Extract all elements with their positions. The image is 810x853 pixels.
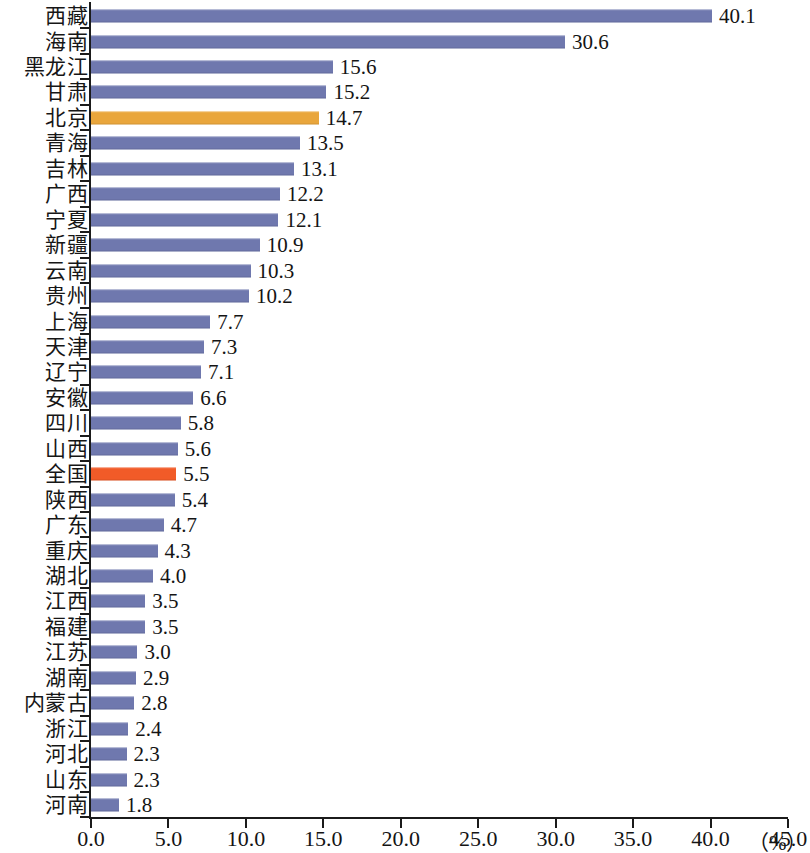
category-label: 山东	[45, 769, 88, 790]
category-label: 新疆	[45, 235, 88, 256]
bar	[91, 417, 181, 430]
chart-row: 广东4.7	[0, 512, 810, 538]
bar-container	[91, 86, 326, 99]
category-label: 四川	[45, 413, 88, 434]
bar-container	[91, 188, 280, 201]
chart-row: 吉林13.1	[0, 156, 810, 182]
chart-row: 江西3.5	[0, 588, 810, 614]
bar	[91, 493, 175, 506]
x-axis-tick-label: 40.0	[691, 826, 730, 852]
bar-container	[91, 35, 565, 48]
y-axis-tick	[80, 282, 90, 284]
chart-row: 上海7.7	[0, 308, 810, 334]
bar-value-label: 30.6	[572, 31, 609, 52]
y-axis-tick	[80, 435, 90, 437]
bar-container	[91, 468, 176, 481]
x-axis-tick-label: 35.0	[614, 826, 653, 852]
category-label: 湖北	[45, 566, 88, 587]
bar	[91, 646, 137, 659]
y-axis-tick	[80, 104, 90, 106]
category-label: 天津	[45, 336, 88, 357]
category-label: 青海	[45, 133, 88, 154]
y-axis-tick	[80, 638, 90, 640]
bar-container	[91, 671, 136, 684]
category-label: 湖南	[45, 667, 88, 688]
bar-value-label: 7.7	[217, 311, 243, 332]
category-label: 安徽	[45, 387, 88, 408]
bar	[91, 239, 260, 252]
bar-value-label: 3.0	[144, 642, 170, 663]
category-label: 甘肃	[45, 82, 88, 103]
bar-container	[91, 646, 137, 659]
y-axis-tick	[80, 511, 90, 513]
y-axis-tick	[80, 78, 90, 80]
bar-value-label: 13.1	[301, 158, 338, 179]
chart-row: 四川5.8	[0, 410, 810, 436]
y-axis-tick	[80, 27, 90, 29]
chart-row: 安徽6.6	[0, 385, 810, 411]
bar-value-label: 4.0	[160, 566, 186, 587]
bar-value-label: 12.2	[287, 184, 324, 205]
bar-value-label: 2.3	[134, 769, 160, 790]
bar	[91, 213, 278, 226]
y-axis-tick	[80, 715, 90, 717]
bar-container	[91, 366, 201, 379]
y-axis-tick	[80, 155, 90, 157]
y-axis-tick	[80, 409, 90, 411]
bar-container	[91, 417, 181, 430]
bar-chart: 西藏40.1海南30.6黑龙江15.6甘肃15.2北京14.7青海13.5吉林1…	[0, 0, 810, 853]
chart-row: 辽宁7.1	[0, 359, 810, 385]
category-label: 西藏	[45, 6, 88, 27]
y-axis-tick	[80, 536, 90, 538]
y-axis-tick	[80, 206, 90, 208]
category-label: 辽宁	[45, 362, 88, 383]
bar	[91, 595, 145, 608]
bar-container	[91, 315, 210, 328]
chart-row: 广西12.2	[0, 181, 810, 207]
x-axis-tick-label: 0.0	[77, 826, 105, 852]
bar	[91, 671, 136, 684]
category-label: 江苏	[45, 642, 88, 663]
bar-value-label: 3.5	[152, 591, 178, 612]
bar	[91, 10, 712, 23]
chart-row: 福建3.5	[0, 614, 810, 640]
bar	[91, 340, 204, 353]
bar-container	[91, 493, 175, 506]
bar	[91, 748, 127, 761]
bar-value-label: 5.4	[182, 489, 208, 510]
bar	[91, 697, 134, 710]
bar-value-label: 7.1	[208, 362, 234, 383]
chart-row: 西藏40.1	[0, 3, 810, 29]
category-label: 福建	[45, 616, 88, 637]
bar	[91, 137, 300, 150]
bar	[91, 442, 178, 455]
chart-row: 青海13.5	[0, 130, 810, 156]
category-label: 内蒙古	[24, 693, 89, 714]
chart-row: 内蒙古2.8	[0, 690, 810, 716]
bar	[91, 264, 251, 277]
bar-value-label: 1.8	[126, 795, 152, 816]
bar-value-label: 4.3	[165, 540, 191, 561]
bar-container	[91, 111, 319, 124]
y-axis-tick	[80, 307, 90, 309]
bar-value-label: 40.1	[719, 6, 756, 27]
bar-value-label: 14.7	[326, 107, 363, 128]
bar-value-label: 15.6	[340, 57, 377, 78]
category-label: 宁夏	[45, 209, 88, 230]
bar-value-label: 2.8	[141, 693, 167, 714]
bar-value-label: 10.2	[256, 286, 293, 307]
bar-value-label: 4.7	[171, 515, 197, 536]
chart-row: 海南30.6	[0, 28, 810, 54]
chart-row: 陕西5.4	[0, 487, 810, 513]
category-label: 贵州	[45, 286, 88, 307]
y-axis-tick	[80, 231, 90, 233]
category-label: 北京	[45, 107, 88, 128]
chart-row: 湖北4.0	[0, 563, 810, 589]
bar-value-label: 2.9	[143, 667, 169, 688]
chart-row: 新疆10.9	[0, 232, 810, 258]
bar-value-label: 5.5	[183, 464, 209, 485]
bar-container	[91, 162, 294, 175]
y-axis-tick	[80, 689, 90, 691]
bar	[91, 315, 210, 328]
bar-container	[91, 595, 145, 608]
